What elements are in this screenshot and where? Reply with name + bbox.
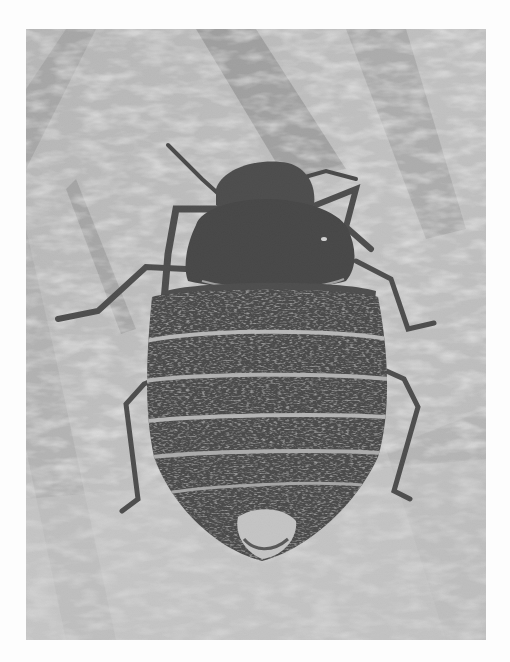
- bedbug-photograph: [26, 29, 486, 640]
- bleed-through-text: [40, 2, 490, 16]
- book-page: [0, 0, 510, 662]
- photo-canvas: [26, 29, 486, 640]
